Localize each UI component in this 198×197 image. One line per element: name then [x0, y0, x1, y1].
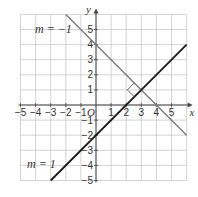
svg-text:−5: −5 [15, 107, 27, 118]
coordinate-plane: −5−4−3−2−112345−5−4−3−2−112345 m = −1 m … [0, 0, 198, 197]
svg-text:4: 4 [154, 107, 160, 118]
svg-text:3: 3 [139, 107, 145, 118]
grid [21, 14, 187, 180]
svg-text:3: 3 [87, 54, 93, 65]
svg-text:2: 2 [123, 107, 129, 118]
y-axis-label: y [85, 3, 91, 15]
svg-text:5: 5 [87, 24, 93, 35]
line-label-m-pos: m = 1 [27, 157, 56, 171]
line-label-m-neg: m = −1 [35, 22, 72, 36]
svg-text:1: 1 [87, 84, 93, 95]
svg-text:2: 2 [87, 69, 93, 80]
svg-text:−3: −3 [45, 107, 57, 118]
svg-text:5: 5 [169, 107, 175, 118]
svg-text:−2: −2 [60, 107, 72, 118]
plot-lines [51, 14, 187, 180]
svg-text:−4: −4 [30, 107, 42, 118]
svg-text:−5: −5 [82, 175, 94, 186]
svg-text:−3: −3 [82, 145, 94, 156]
svg-text:1: 1 [108, 107, 114, 118]
x-axis-label: x [189, 106, 195, 118]
svg-text:−4: −4 [82, 160, 94, 171]
origin-label: O [87, 106, 95, 118]
